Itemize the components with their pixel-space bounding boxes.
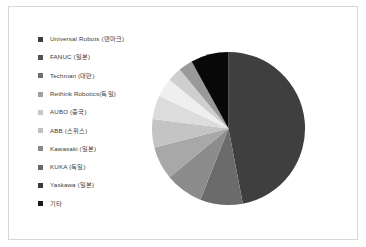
legend-item[interactable]: Techman (대만): [38, 67, 158, 85]
legend-swatch-icon: [38, 201, 43, 206]
legend-item[interactable]: FANUC (일본): [38, 48, 158, 66]
legend-item-label: Universal Robots (덴마크): [50, 36, 124, 42]
legend-item-label: AUBO (중국): [50, 109, 87, 115]
legend-item-label: ABB (스위스): [50, 128, 88, 134]
pie-chart-svg: [150, 50, 307, 207]
legend-swatch-icon: [38, 55, 43, 60]
legend-item[interactable]: Yaskawa (일본): [38, 176, 158, 194]
legend-item[interactable]: Rethink Robotics(독일): [38, 85, 158, 103]
legend-item-label: FANUC (일본): [50, 54, 90, 60]
pie-chart-plot-area: Universal Robots (덴마크) FANUC (일본) Techma…: [0, 0, 366, 247]
legend-swatch-icon: [38, 73, 43, 78]
legend-item-label: Techman (대만): [50, 73, 95, 79]
legend-item[interactable]: 기타: [38, 195, 158, 213]
legend-swatch-icon: [38, 146, 43, 151]
legend-swatch-icon: [38, 92, 43, 97]
legend-item[interactable]: AUBO (중국): [38, 103, 158, 121]
pie-chart: [150, 50, 307, 207]
legend-item-label: 기타: [50, 201, 62, 207]
legend-item[interactable]: Universal Robots (덴마크): [38, 30, 158, 48]
legend-item[interactable]: Kawasaki (일본): [38, 140, 158, 158]
legend-swatch-icon: [38, 37, 43, 42]
legend-item-label: Kawasaki (일본): [50, 146, 96, 152]
legend-swatch-icon: [38, 110, 43, 115]
pie-slice-group: [152, 52, 305, 205]
chart-figure: Universal Robots (덴마크) FANUC (일본) Techma…: [0, 0, 366, 247]
legend-swatch-icon: [38, 183, 43, 188]
legend-item[interactable]: KUKA (독일): [38, 158, 158, 176]
legend-swatch-icon: [38, 165, 43, 170]
legend-item-label: Rethink Robotics(독일): [50, 91, 116, 97]
chart-legend: Universal Robots (덴마크) FANUC (일본) Techma…: [38, 30, 158, 213]
pie-slice[interactable]: [229, 52, 306, 204]
legend-item[interactable]: ABB (스위스): [38, 121, 158, 139]
legend-swatch-icon: [38, 128, 43, 133]
legend-item-label: Yaskawa (일본): [50, 182, 94, 188]
legend-item-label: KUKA (독일): [50, 164, 86, 170]
